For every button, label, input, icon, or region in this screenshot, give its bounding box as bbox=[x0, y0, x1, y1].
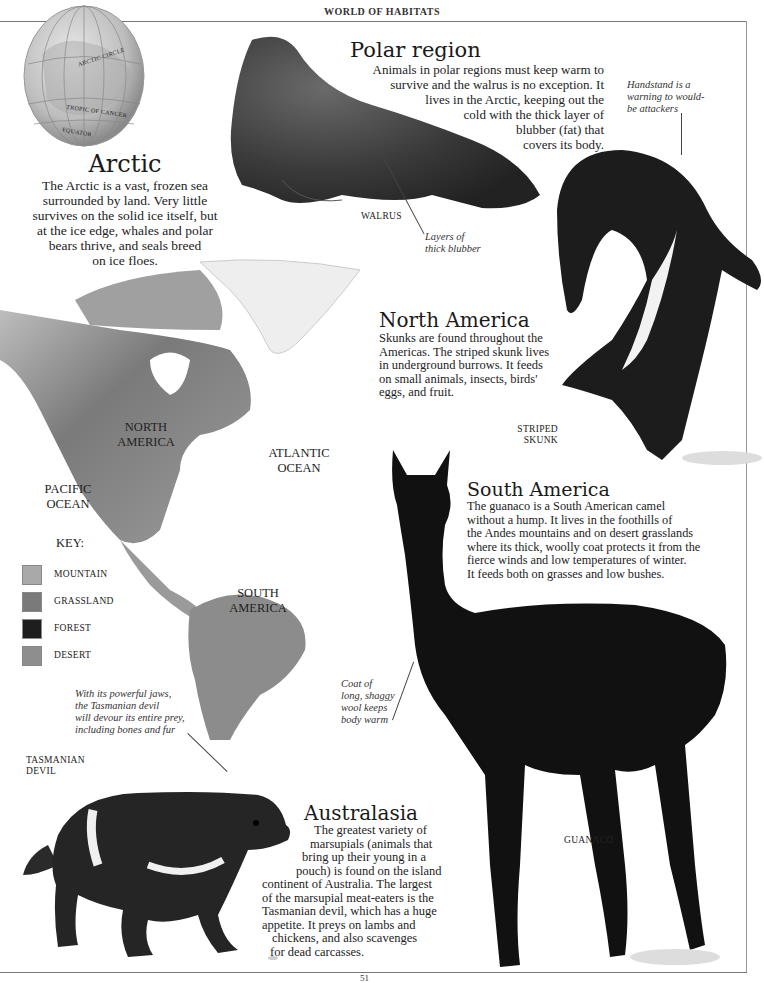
north-america-section: North America Skunks are found throughou… bbox=[379, 308, 599, 400]
forest-swatch bbox=[22, 619, 42, 639]
polar-heading: Polar region bbox=[350, 38, 604, 62]
mountain-swatch bbox=[22, 565, 42, 585]
arctic-heading: Arctic bbox=[14, 150, 236, 178]
globe-illustration: ARCTIC CIRCLE TROPIC OF CANCER EQUATOR bbox=[22, 4, 146, 152]
map-key-item-forest: FOREST bbox=[22, 615, 132, 642]
map-key-title: KEY: bbox=[22, 536, 132, 551]
north-america-body: Skunks are found throughout the Americas… bbox=[379, 332, 599, 400]
map-label-atlantic-ocean: ATLANTIC OCEAN bbox=[256, 446, 342, 476]
coat-caption: Coat of long, shaggy wool keeps body war… bbox=[341, 678, 395, 726]
skunk-label: STRIPED SKUNK bbox=[516, 424, 558, 446]
map-label-south-america: SOUTH AMERICA bbox=[218, 586, 298, 616]
guanaco-label: GUANACO bbox=[564, 835, 614, 846]
map-key-item-grassland: GRASSLAND bbox=[22, 588, 132, 615]
australasia-heading: Australasia bbox=[304, 802, 472, 824]
south-america-body: The guanaco is a South American camel wi… bbox=[467, 500, 757, 581]
desert-swatch bbox=[22, 646, 42, 666]
polar-section: Polar region Animals in polar regions mu… bbox=[350, 38, 604, 152]
north-america-heading: North America bbox=[379, 308, 599, 332]
tasmanian-devil-illustration bbox=[18, 765, 300, 965]
map-key-item-desert: DESERT bbox=[22, 642, 132, 669]
map-key-item-mountain: MOUNTAIN bbox=[22, 561, 132, 588]
south-america-heading: South America bbox=[467, 478, 757, 500]
tasmanian-caption: With its powerful jaws, the Tasmanian de… bbox=[75, 688, 185, 736]
skunk-caption: Handstand is a warning to would- be atta… bbox=[627, 79, 705, 115]
polar-body: Animals in polar regions must keep warm … bbox=[350, 62, 604, 152]
south-america-section: South America The guanaco is a South Ame… bbox=[467, 478, 757, 581]
walrus-label: WALRUS bbox=[361, 211, 402, 222]
grassland-swatch bbox=[22, 592, 42, 612]
page-number: 51 bbox=[360, 973, 369, 983]
australasia-body: The greatest variety of marsupials (anim… bbox=[262, 824, 472, 959]
map-label-north-america: NORTH AMERICA bbox=[106, 420, 186, 450]
blubber-caption: Layers of thick blubber bbox=[425, 231, 481, 255]
map-label-pacific-ocean: PACIFIC OCEAN bbox=[32, 482, 104, 512]
australasia-section: Australasia The greatest variety of mars… bbox=[262, 802, 472, 959]
map-key: KEY: MOUNTAIN GRASSLAND FOREST DESERT bbox=[22, 536, 132, 669]
skunk-illustration bbox=[552, 140, 764, 470]
